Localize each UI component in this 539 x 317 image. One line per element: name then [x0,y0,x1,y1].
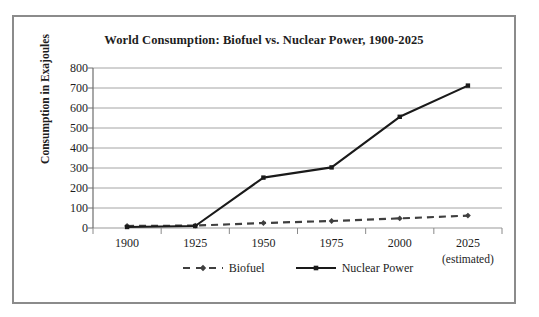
legend-marker [199,265,205,271]
series-line-biofuel [127,216,468,226]
y-tick-label: 600 [48,102,88,114]
data-point-marker [125,225,129,229]
y-tick-label: 300 [48,162,88,174]
legend-entry-biofuel[interactable]: Biofuel [182,261,265,276]
data-point-marker [329,165,333,169]
x-axis-tick-labels: 190019251950197520002025(estimated) [93,236,502,256]
y-tick-label: 400 [48,142,88,154]
data-point-marker [261,220,267,226]
y-tick-label: 0 [48,222,88,234]
data-point-marker [261,175,265,179]
data-point-marker [329,218,335,224]
data-point-marker [398,115,402,119]
plot-area [93,68,502,228]
y-tick-label: 700 [48,82,88,94]
chart-title: World Consumption: Biofuel vs. Nuclear P… [14,33,514,48]
data-point-marker [465,213,471,219]
legend-entry-nuclear-power[interactable]: Nuclear Power [295,261,414,276]
data-point-marker [193,224,197,228]
x-tick-label: 2025 [432,236,504,251]
x-tick-label: 1900 [91,236,163,251]
y-tick-label: 500 [48,122,88,134]
data-point-marker [466,83,470,87]
y-tick-label: 800 [48,62,88,74]
y-tick-label: 100 [48,202,88,214]
x-tick-label: 2000 [364,236,436,251]
series-line-nuclear-power [127,86,468,227]
legend-label: Biofuel [229,261,265,276]
legend-swatch-dashed [182,262,224,274]
legend-swatch-solid [295,262,337,274]
chart-frame: World Consumption: Biofuel vs. Nuclear P… [12,15,516,304]
chart-legend: BiofuelNuclear Power [93,257,502,279]
y-axis-tick-labels: 0100200300400500600700800 [48,68,88,228]
data-point-marker [397,216,403,222]
x-tick-label: 1925 [159,236,231,251]
legend-marker [313,266,318,271]
legend-label: Nuclear Power [342,261,414,276]
x-tick-label: 1950 [227,236,299,251]
x-tick-label: 1975 [296,236,368,251]
chart-plot-svg [93,68,502,228]
y-tick-label: 200 [48,182,88,194]
